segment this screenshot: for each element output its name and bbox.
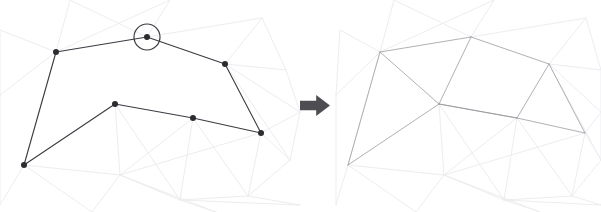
polygon-edge: [193, 118, 261, 133]
polygon-vertex: [190, 115, 196, 121]
background-mesh-edge: [225, 64, 300, 112]
background-mesh-edge: [225, 64, 290, 160]
background-mesh-edge: [586, 18, 601, 70]
polygon-edge: [471, 37, 549, 64]
background-mesh-edge: [348, 165, 416, 212]
background-mesh-edge: [585, 133, 601, 160]
background-mesh-edge: [180, 118, 193, 200]
polygon-edge: [348, 52, 380, 165]
polygon-edge: [517, 118, 585, 133]
background-mesh-edge: [572, 160, 601, 196]
background-mesh-edge: [444, 118, 517, 175]
polygon-vertex: [21, 162, 27, 168]
background-mesh-edge: [286, 70, 300, 112]
polygon-edge: [115, 104, 193, 118]
polygon-edge: [439, 104, 517, 118]
background-mesh-edge: [549, 64, 601, 70]
background-mesh-edge: [585, 112, 601, 133]
background-mesh-edge: [261, 112, 300, 133]
background-mesh-right: [336, 0, 601, 212]
background-mesh-edge: [0, 165, 24, 205]
background-mesh-edge: [549, 18, 586, 64]
background-mesh-edge: [180, 200, 300, 205]
triangulation-edge: [439, 37, 471, 104]
background-mesh-edge: [439, 104, 444, 175]
background-mesh-edge: [261, 133, 290, 160]
background-mesh-edge: [115, 104, 120, 175]
polygon-vertex: [144, 34, 150, 40]
polygon-vertex: [112, 101, 118, 107]
background-mesh-edge: [504, 196, 572, 200]
background-mesh-edge: [262, 18, 286, 70]
triangulation-edge: [380, 52, 439, 104]
background-mesh-edge: [24, 165, 120, 175]
background-mesh-edge: [120, 133, 261, 175]
background-mesh-edge: [24, 165, 92, 212]
background-mesh-edge: [180, 196, 248, 200]
right-arrow-icon: [300, 95, 330, 116]
polygon-edge: [56, 37, 147, 52]
background-mesh-edge: [225, 64, 286, 70]
background-mesh-edge: [0, 30, 56, 52]
background-mesh-edge: [290, 112, 300, 160]
background-mesh-edge: [193, 118, 248, 196]
background-mesh-edge: [471, 18, 586, 37]
background-mesh-edge: [394, 0, 471, 37]
triangulation-edge: [517, 64, 549, 118]
background-mesh-edge: [572, 133, 585, 196]
polygon-outline-left: [24, 37, 261, 165]
polygon-vertex: [222, 61, 228, 67]
figure-canvas: [0, 0, 601, 212]
polygon-edge: [549, 64, 585, 133]
background-mesh-edge: [336, 30, 340, 95]
background-mesh-edge: [0, 52, 56, 95]
background-mesh-edge: [444, 133, 585, 175]
polygon-vertices-left: [21, 34, 264, 168]
polygon-vertex: [53, 49, 59, 55]
background-mesh-edge: [336, 165, 348, 205]
background-mesh-edge: [92, 175, 120, 212]
background-mesh-edge: [380, 0, 394, 52]
background-mesh-edge: [180, 200, 216, 212]
background-mesh-edge: [120, 118, 193, 175]
polygon-vertex: [258, 130, 264, 136]
polygon-edge: [24, 52, 56, 165]
background-mesh-edge: [56, 0, 70, 52]
polygon-edge: [225, 64, 261, 133]
polygon-edge: [380, 37, 471, 52]
background-mesh-edge: [147, 18, 262, 37]
mesh-triangulation-diagram: [0, 0, 601, 212]
polygon-edge: [24, 104, 115, 165]
right-arrow-shape: [300, 95, 330, 116]
background-mesh-edge: [340, 30, 380, 52]
background-mesh-edge: [517, 118, 572, 196]
polygon-outline-right: [348, 37, 585, 165]
triangulation-edges-right: [380, 37, 549, 118]
polygon-edge: [147, 37, 225, 64]
background-mesh-edge: [504, 118, 517, 200]
background-mesh-edge: [416, 175, 444, 212]
background-mesh-edge: [225, 18, 262, 64]
background-mesh-left: [0, 0, 300, 212]
background-mesh-edge: [380, 0, 494, 52]
polygon-edge: [348, 104, 439, 165]
background-mesh-edge: [348, 165, 444, 175]
background-mesh-edge: [549, 64, 601, 112]
